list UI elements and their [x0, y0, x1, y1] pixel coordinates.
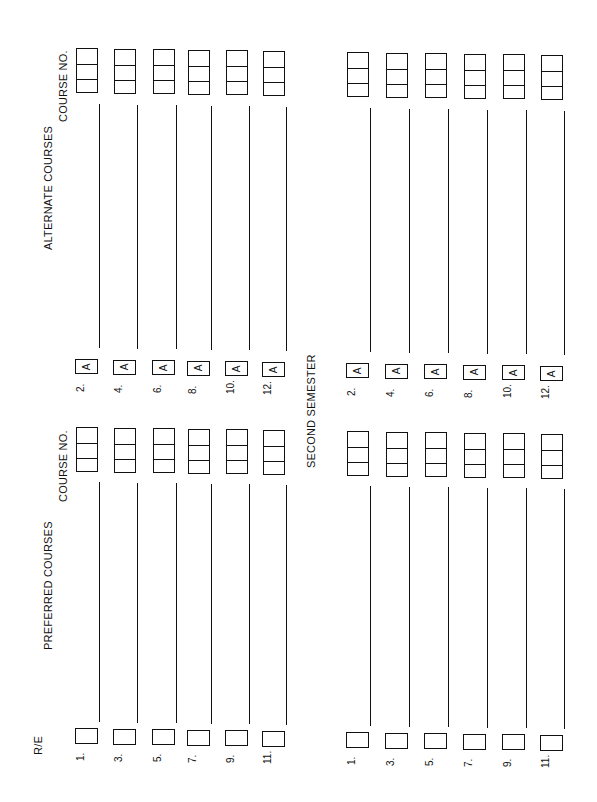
alternate-course-line[interactable]: [526, 110, 527, 354]
course-number-cell-divider: [227, 81, 247, 82]
preferred-course-number-box[interactable]: [503, 433, 525, 478]
alternate-course-line[interactable]: [448, 109, 449, 353]
course-number-cell-divider: [504, 70, 524, 71]
alternate-course-number-box[interactable]: [153, 49, 175, 94]
preferred-course-line[interactable]: [370, 486, 371, 726]
alternate-course-line[interactable]: [211, 106, 212, 350]
preferred-row-number: 9.: [502, 759, 513, 767]
alternate-row-number: 10.: [502, 384, 513, 398]
preferred-course-number-box[interactable]: [226, 429, 248, 474]
preferred-course-line[interactable]: [448, 487, 449, 727]
alternate-a-box[interactable]: A: [502, 365, 525, 380]
course-number-cell-divider: [154, 444, 174, 445]
alternate-course-number-box[interactable]: [226, 50, 248, 95]
preferred-course-number-box[interactable]: [347, 431, 369, 476]
preferred-course-line[interactable]: [137, 483, 138, 723]
preferred-course-line[interactable]: [249, 484, 250, 724]
course-number-cell-divider: [189, 460, 209, 461]
alternate-course-line[interactable]: [286, 107, 287, 351]
alternate-course-number-box[interactable]: [386, 53, 408, 98]
preferred-course-line[interactable]: [211, 484, 212, 724]
alternate-course-number-box[interactable]: [347, 52, 369, 97]
course-number-cell-divider: [264, 446, 284, 447]
preferred-course-number-box[interactable]: [76, 427, 98, 472]
alternate-a-box[interactable]: A: [385, 364, 408, 379]
preferred-row-number: 7.: [463, 758, 474, 766]
preferred-course-number-box[interactable]: [464, 433, 486, 478]
alternate-a-box[interactable]: A: [262, 362, 285, 377]
course-number-cell-divider: [154, 459, 174, 460]
preferred-row-number: 5.: [152, 754, 163, 762]
re-box[interactable]: [75, 728, 98, 744]
course-number-cell-divider: [348, 447, 368, 448]
re-box[interactable]: [385, 733, 408, 749]
preferred-row-number: 1.: [75, 753, 86, 761]
alternate-course-line[interactable]: [249, 106, 250, 350]
alternate-a-box[interactable]: A: [113, 360, 136, 375]
alternate-course-line[interactable]: [99, 104, 100, 348]
alternate-course-number-box[interactable]: [188, 50, 210, 95]
alternate-row-number: 10.: [225, 380, 236, 394]
alternate-a-box[interactable]: A: [346, 363, 369, 378]
re-box[interactable]: [262, 731, 285, 747]
preferred-course-line[interactable]: [409, 487, 410, 727]
alternate-course-number-box[interactable]: [503, 54, 525, 99]
course-number-cell-divider: [115, 80, 135, 81]
preferred-course-line[interactable]: [526, 488, 527, 728]
alternate-course-number-box[interactable]: [425, 53, 447, 98]
preferred-course-number-box[interactable]: [386, 432, 408, 477]
alternate-course-line[interactable]: [564, 111, 565, 355]
alternate-course-number-box[interactable]: [76, 48, 98, 93]
re-box[interactable]: [152, 729, 175, 745]
alternate-course-number-box[interactable]: [114, 49, 136, 94]
preferred-course-number-box[interactable]: [263, 430, 285, 475]
alternate-course-number-box[interactable]: [263, 51, 285, 96]
preferred-course-line[interactable]: [99, 482, 100, 722]
alternate-a-box[interactable]: A: [463, 365, 486, 380]
preferred-course-number-box[interactable]: [541, 434, 563, 479]
alternate-course-number-box[interactable]: [541, 55, 563, 100]
alternate-course-line[interactable]: [370, 108, 371, 352]
preferred-course-line[interactable]: [564, 489, 565, 729]
preferred-course-line[interactable]: [487, 488, 488, 728]
re-box[interactable]: [502, 734, 525, 750]
course-number-cell-divider: [426, 448, 446, 449]
a-label: A: [194, 365, 204, 372]
alternate-a-box[interactable]: A: [225, 361, 248, 376]
preferred-course-number-box[interactable]: [425, 432, 447, 477]
re-box[interactable]: [463, 734, 486, 750]
course-number-cell-divider: [115, 444, 135, 445]
alternate-course-line[interactable]: [409, 109, 410, 353]
a-label: A: [232, 366, 242, 373]
re-box[interactable]: [187, 730, 210, 746]
preferred-course-number-box[interactable]: [188, 429, 210, 474]
alternate-a-box[interactable]: A: [187, 361, 210, 376]
alternate-row-number: 6.: [424, 389, 435, 397]
alternate-course-line[interactable]: [137, 105, 138, 349]
alternate-a-box[interactable]: A: [424, 364, 447, 379]
alternate-a-box[interactable]: A: [540, 366, 563, 381]
preferred-course-number-box[interactable]: [153, 428, 175, 473]
alternate-row-number: 6.: [152, 385, 163, 393]
preferred-course-line[interactable]: [176, 483, 177, 723]
preferred-course-number-box[interactable]: [114, 428, 136, 473]
course-number-cell-divider: [227, 445, 247, 446]
course-number-cell-divider: [387, 448, 407, 449]
alternate-a-box[interactable]: A: [152, 360, 175, 375]
a-label: A: [120, 364, 130, 371]
preferred-course-line[interactable]: [286, 485, 287, 725]
alternate-course-number-box[interactable]: [464, 54, 486, 99]
re-box[interactable]: [424, 733, 447, 749]
alternate-a-box[interactable]: A: [75, 359, 98, 374]
alternate-course-line[interactable]: [176, 105, 177, 349]
course-number-cell-divider: [504, 85, 524, 86]
re-box[interactable]: [225, 730, 248, 746]
course-number-cell-divider: [77, 64, 97, 65]
re-box[interactable]: [113, 729, 136, 745]
course-number-cell-divider: [264, 82, 284, 83]
alternate-course-line[interactable]: [487, 110, 488, 354]
re-box[interactable]: [346, 732, 369, 748]
alternate-row-number: 2.: [75, 384, 86, 392]
re-box[interactable]: [540, 735, 563, 751]
preferred-row-number: 5.: [424, 758, 435, 766]
